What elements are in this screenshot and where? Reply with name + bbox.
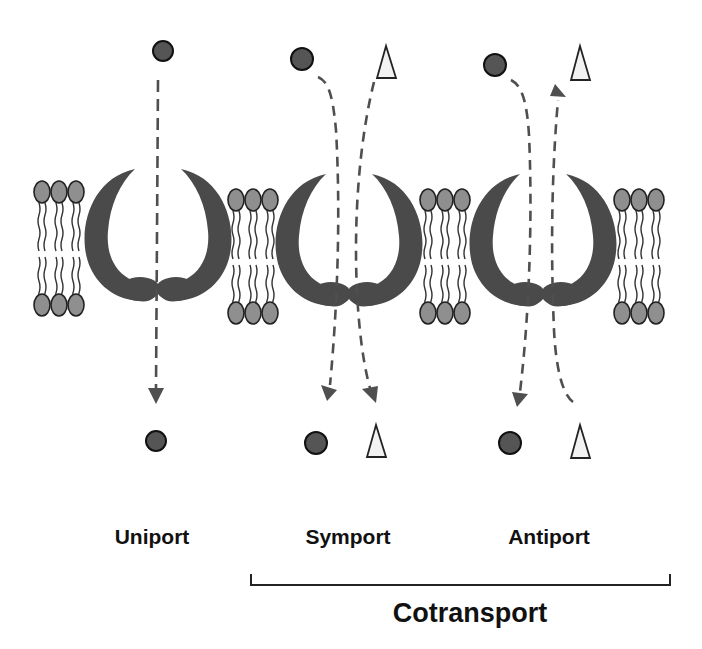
arrowhead-down-icon — [148, 388, 164, 404]
membrane-transport-diagram — [0, 0, 702, 649]
lipid-icon — [454, 189, 470, 324]
lipid-icon — [631, 189, 647, 324]
molecule-triangle-icon — [571, 425, 590, 458]
lipid-icon — [68, 181, 84, 316]
lipid-icon — [228, 189, 244, 324]
lipid-icon — [34, 181, 50, 316]
lipid-group-4 — [614, 189, 664, 324]
lipid-icon — [614, 189, 630, 324]
arrowhead-down-icon — [321, 385, 337, 401]
lipid-icon — [245, 189, 261, 324]
lipid-group-1 — [34, 181, 84, 316]
symport-protein-icon — [276, 174, 423, 306]
lipid-icon — [51, 181, 67, 316]
molecule-triangle-icon — [571, 46, 590, 80]
molecule-circle-icon — [146, 431, 166, 451]
antiport-flow — [484, 46, 590, 458]
cotransport-bracket — [250, 574, 671, 586]
symport-label: Symport — [305, 525, 390, 549]
dashed-arrow-line — [356, 82, 374, 388]
molecule-circle-icon — [305, 432, 327, 454]
arrowhead-down-icon — [362, 386, 378, 403]
molecule-circle-icon — [484, 54, 506, 76]
molecule-circle-icon — [499, 432, 521, 454]
lipid-group-2 — [228, 189, 278, 324]
uniport-label: Uniport — [115, 525, 190, 549]
arrowhead-up-icon — [550, 84, 566, 97]
dashed-arrow-line — [156, 80, 158, 388]
lipid-icon — [437, 189, 453, 324]
dashed-arrow-line — [511, 80, 530, 392]
lipid-icon — [648, 189, 664, 324]
molecule-triangle-icon — [367, 425, 386, 457]
antiport-label: Antiport — [508, 525, 590, 549]
uniport-flow — [146, 41, 173, 451]
dashed-arrow-line — [552, 100, 573, 402]
antiport-protein-icon — [470, 174, 617, 306]
symport-flow — [291, 46, 396, 457]
dashed-arrow-line — [318, 77, 338, 385]
molecule-circle-icon — [291, 48, 313, 70]
molecule-circle-icon — [153, 41, 173, 61]
lipid-group-3 — [420, 189, 470, 324]
arrowhead-down-icon — [512, 392, 528, 407]
lipid-icon — [420, 189, 436, 324]
molecule-triangle-icon — [377, 46, 396, 78]
cotransport-label: Cotransport — [393, 598, 548, 629]
lipid-icon — [262, 189, 278, 324]
